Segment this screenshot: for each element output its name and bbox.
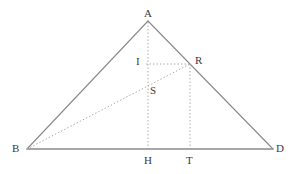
geometry-figure [0,0,295,174]
point-label-D: D [276,143,284,154]
diagram-canvas: A B D R I S H T [0,0,295,174]
point-label-R: R [195,55,202,66]
point-label-A: A [144,8,152,19]
point-label-B: B [12,143,19,154]
point-label-T: T [186,155,193,166]
point-label-S: S [150,85,156,96]
point-label-I: I [136,56,140,67]
segment-side-AD [148,21,273,149]
segment-cevian-BR [27,64,190,149]
point-label-H: H [144,155,152,166]
segment-side-AB [27,21,148,149]
